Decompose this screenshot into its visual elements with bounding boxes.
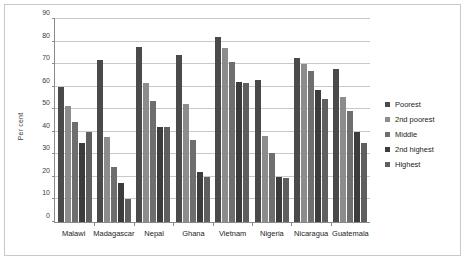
- bar: [204, 177, 210, 222]
- plot-area: 0102030405060708090: [54, 19, 370, 223]
- legend-swatch-icon: [385, 132, 390, 137]
- bar: [276, 177, 282, 222]
- bar: [262, 136, 268, 222]
- bar: [58, 87, 64, 222]
- y-axis-tick-label: 0: [46, 212, 50, 219]
- bar-group: [55, 19, 94, 222]
- x-axis-tick-mark: [173, 222, 174, 226]
- x-axis-label: Malawi: [54, 228, 93, 244]
- x-axis-label: Nicaragua: [292, 228, 331, 244]
- bar: [79, 143, 85, 222]
- bar: [183, 104, 189, 222]
- bar: [255, 80, 261, 222]
- legend-swatch-icon: [385, 147, 390, 152]
- bar-group: [291, 19, 330, 222]
- legend-item[interactable]: Highest: [385, 157, 459, 172]
- x-axis-label: Ghana: [174, 228, 213, 244]
- legend-item[interactable]: Poorest: [385, 97, 459, 112]
- bar-group: [173, 19, 212, 222]
- y-axis-title: Per cent: [14, 86, 28, 166]
- x-axis-label: Vietnam: [213, 228, 252, 244]
- x-axis-label: Nigeria: [252, 228, 291, 244]
- bar-group: [331, 19, 370, 222]
- bar: [222, 48, 228, 222]
- bar: [157, 127, 163, 222]
- bar: [361, 143, 367, 222]
- bar: [236, 82, 242, 222]
- bar: [164, 127, 170, 222]
- bar: [190, 140, 196, 222]
- legend-swatch-icon: [385, 117, 390, 122]
- x-axis-tick-mark: [331, 222, 332, 226]
- bar: [72, 122, 78, 222]
- x-axis-tick-mark: [252, 222, 253, 226]
- x-axis-tick-mark: [291, 222, 292, 226]
- bar: [294, 58, 300, 222]
- y-axis-title-text: Per cent: [18, 112, 25, 140]
- bar: [86, 132, 92, 222]
- y-axis-tick-label: 80: [42, 31, 50, 38]
- legend-item[interactable]: Middle: [385, 127, 459, 142]
- legend-item-label: 2nd highest: [395, 145, 434, 154]
- bar: [354, 132, 360, 222]
- bar-group: [94, 19, 133, 222]
- legend-item-label: Highest: [395, 160, 420, 169]
- legend-item[interactable]: 2nd poorest: [385, 112, 459, 127]
- bar: [150, 101, 156, 222]
- y-axis-tick-label: 10: [42, 189, 50, 196]
- bar: [315, 90, 321, 222]
- bar: [322, 99, 328, 222]
- bar: [104, 137, 110, 222]
- x-axis-label: Nepal: [135, 228, 174, 244]
- bar: [197, 172, 203, 222]
- bar: [118, 183, 124, 222]
- bar: [143, 83, 149, 222]
- y-axis-tick-label: 90: [42, 9, 50, 16]
- bar: [97, 60, 103, 222]
- x-axis-tick-mark: [213, 222, 214, 226]
- bar: [308, 71, 314, 222]
- bar: [340, 97, 346, 222]
- bar: [269, 153, 275, 222]
- bar: [125, 199, 131, 222]
- chart-figure: Per cent 0102030405060708090 MalawiMadag…: [0, 0, 465, 266]
- y-axis-tick-label: 40: [42, 121, 50, 128]
- bar: [136, 47, 142, 222]
- bar: [333, 69, 339, 222]
- y-axis-tick-label: 60: [42, 76, 50, 83]
- bar: [176, 55, 182, 222]
- bar: [301, 64, 307, 222]
- bar-group: [134, 19, 173, 222]
- bar: [111, 167, 117, 222]
- chart-legend: Poorest2nd poorestMiddle2nd highestHighe…: [385, 97, 459, 172]
- x-axis-labels: MalawiMadagascarNepalGhanaVietnamNigeria…: [54, 228, 370, 244]
- bar: [283, 178, 289, 222]
- x-axis-tick-mark: [94, 222, 95, 226]
- legend-item-label: Middle: [395, 130, 417, 139]
- bar: [215, 37, 221, 222]
- y-axis-tick-label: 20: [42, 166, 50, 173]
- legend-item-label: Poorest: [395, 100, 421, 109]
- bar: [347, 111, 353, 222]
- legend-item-label: 2nd poorest: [395, 115, 435, 124]
- x-axis-label: Madagascar: [93, 228, 134, 244]
- y-axis-tick-label: 70: [42, 54, 50, 61]
- bar-group: [252, 19, 291, 222]
- legend-item[interactable]: 2nd highest: [385, 142, 459, 157]
- y-axis-tick-label: 50: [42, 99, 50, 106]
- bar-groups: [55, 19, 370, 222]
- bar: [229, 62, 235, 222]
- x-axis-label: Guatemala: [331, 228, 370, 244]
- bar: [65, 106, 71, 222]
- legend-swatch-icon: [385, 162, 390, 167]
- y-axis-tick-label: 30: [42, 144, 50, 151]
- bar-group: [213, 19, 252, 222]
- legend-swatch-icon: [385, 102, 390, 107]
- bar: [243, 83, 249, 222]
- x-axis-tick-mark: [134, 222, 135, 226]
